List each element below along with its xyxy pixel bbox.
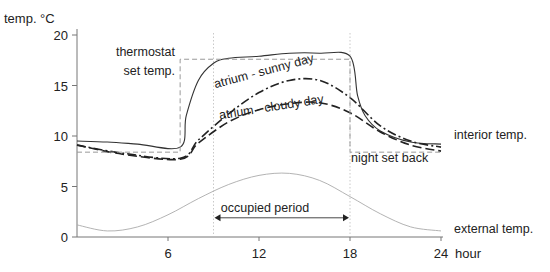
chart: 051015206121824temp. °Chour thermostatse… bbox=[0, 0, 550, 272]
y-tick-label: 15 bbox=[54, 79, 68, 94]
annotation-label: thermostat bbox=[116, 45, 176, 59]
y-tick-label: 5 bbox=[61, 180, 68, 195]
annotation-label: atrium - sunny day bbox=[212, 51, 316, 91]
annotation-label: occupied period bbox=[221, 201, 309, 215]
y-tick-label: 10 bbox=[54, 129, 68, 144]
annotation-label: atrium - cloudy day bbox=[218, 92, 325, 122]
x-tick-label: 24 bbox=[434, 246, 448, 261]
annotation-label: interior temp. bbox=[454, 128, 527, 142]
annotation-label: night set back bbox=[351, 151, 429, 165]
annotation-label: set temp. bbox=[124, 64, 175, 78]
y-axis-label: temp. °C bbox=[4, 11, 55, 26]
y-tick-label: 20 bbox=[54, 28, 68, 43]
x-axis-label: hour bbox=[455, 246, 482, 261]
y-tick-label: 0 bbox=[61, 230, 68, 245]
arrowhead-left-icon bbox=[215, 214, 221, 221]
series-atrium-sunny-day bbox=[77, 79, 441, 159]
x-tick-label: 18 bbox=[343, 246, 357, 261]
annotation-label: external temp. bbox=[454, 222, 533, 236]
x-tick-label: 12 bbox=[252, 246, 266, 261]
arrowhead-right-icon bbox=[343, 214, 349, 221]
x-tick-label: 6 bbox=[164, 246, 171, 261]
